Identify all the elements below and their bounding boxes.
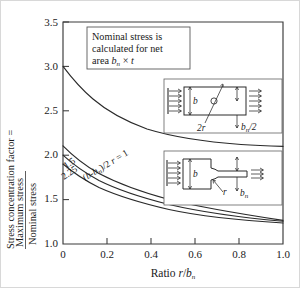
x-tick-label-0.6: 0.6	[188, 248, 202, 260]
note-line-1: Nominal stress is	[92, 31, 162, 42]
hole-dim-b-label: b	[193, 96, 198, 106]
note-line-2: calculated for net	[92, 43, 163, 54]
note-box: Nominal stress is calculated for net are…	[87, 27, 190, 69]
x-tick-label-0.2: 0.2	[100, 248, 114, 260]
y-tick-label-3.0: 3.0	[44, 60, 58, 72]
hole-dim-2r-label: 2r	[197, 123, 206, 133]
shoulder-dim-b-label: b	[193, 169, 198, 179]
x-tick-label-0: 0	[60, 248, 66, 260]
y-axis-denominator: Nominal stress	[27, 183, 38, 245]
inset-stepped-plate: b bn r	[164, 151, 282, 205]
y-tick-label-3.5: 3.5	[44, 16, 58, 28]
inset-plate-with-hole: b bn/2 2r	[164, 79, 282, 134]
y-tick-label-2.5: 2.5	[44, 104, 58, 116]
chart-svg: Stress concentration factor = Maximum st…	[1, 1, 300, 288]
y-axis-numerator: Maximum stress	[14, 178, 25, 247]
y-axis-title-fraction: Maximum stress Nominal stress	[14, 171, 38, 249]
y-tick-label-2.0: 2.0	[44, 148, 58, 160]
y-tick-label-1.5: 1.5	[44, 192, 58, 204]
shoulder-dim-r-label: r	[223, 187, 227, 197]
x-axis-title: Ratio r/bn	[151, 267, 196, 281]
shoulder-right-arrows	[251, 168, 264, 180]
x-tick-label-0.8: 0.8	[232, 248, 246, 260]
y-tick-label-1.0: 1.0	[44, 237, 58, 249]
x-tick-label-1.0: 1.0	[276, 248, 290, 260]
x-tick-label-0.4: 0.4	[144, 248, 158, 260]
curve-label-ratio-1: (b-bn)/2 r = 1	[80, 147, 131, 185]
chart-figure: Stress concentration factor = Maximum st…	[0, 0, 300, 288]
curve-label-ratio-1-text: (b-bn)/2 r = 1	[80, 147, 131, 185]
